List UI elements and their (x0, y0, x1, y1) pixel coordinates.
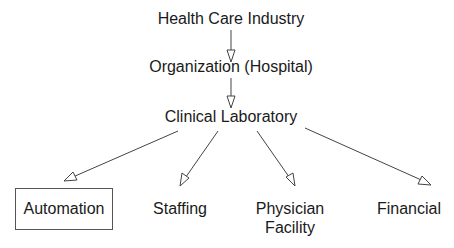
node-label: Financial (377, 200, 441, 217)
arrow-clinical-lab-to-staffing (180, 131, 218, 186)
arrow-clinical-lab-to-financial (305, 128, 431, 185)
node-label: Organization (Hospital) (149, 58, 313, 75)
node-label: Health Care Industry (158, 10, 305, 27)
node-organization-hospital: Organization (Hospital) (141, 57, 321, 76)
node-automation: Automation (15, 188, 113, 230)
node-physician-facility: Physician Facility (250, 199, 330, 237)
node-label-line1: Physician (250, 199, 330, 218)
node-clinical-laboratory: Clinical Laboratory (151, 107, 311, 126)
node-label: Clinical Laboratory (165, 108, 298, 125)
node-health-care-industry: Health Care Industry (151, 9, 311, 28)
node-staffing: Staffing (140, 199, 220, 218)
arrow-organization-to-clinical-lab (227, 78, 235, 108)
node-label: Staffing (153, 200, 207, 217)
node-financial: Financial (369, 199, 449, 218)
node-label-line2: Facility (250, 218, 330, 237)
arrow-clinical-lab-to-automation (64, 131, 178, 181)
node-label: Automation (24, 200, 105, 217)
arrow-clinical-lab-to-physician-facility (257, 131, 295, 186)
